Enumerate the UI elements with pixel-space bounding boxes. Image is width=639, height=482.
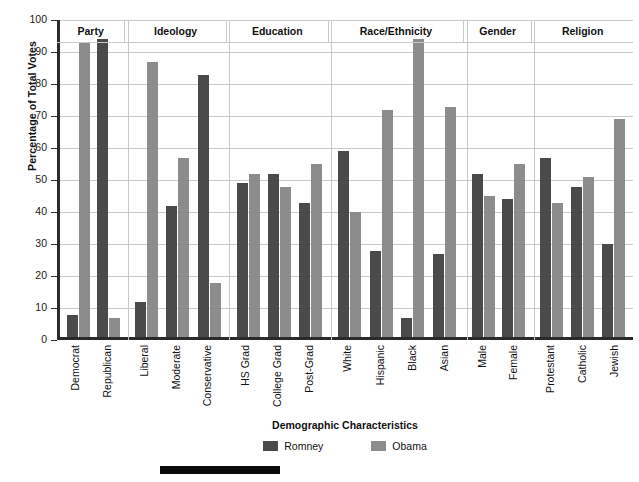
- x-label-group: DemocratRepublican: [57, 343, 125, 423]
- y-axis-tick-label: 60: [0, 141, 47, 153]
- plot-area: [57, 20, 633, 340]
- y-axis-tick-label: 80: [0, 77, 47, 89]
- bar-pair: [67, 17, 90, 337]
- bar-obama: [514, 164, 525, 337]
- bar-pair: [135, 17, 158, 337]
- bar-romney: [401, 318, 412, 337]
- x-axis-tick-label: HS Grad: [232, 343, 258, 423]
- x-axis-tick-label: White: [334, 343, 360, 423]
- bar-pair: [540, 17, 563, 337]
- bar-romney: [237, 183, 248, 337]
- bar-group-religion: [532, 17, 633, 337]
- bar-pair: [472, 17, 495, 337]
- x-axis-tick-label: Female: [500, 343, 526, 423]
- legend-item-obama: Obama: [371, 440, 426, 452]
- x-axis-tick-label: Asian: [431, 343, 457, 423]
- y-axis-tick-label: 100: [0, 13, 47, 25]
- bar-pair: [401, 17, 424, 337]
- x-label-group: ProtestantCatholicJewish: [531, 343, 633, 423]
- y-axis-tick-label: 10: [0, 301, 47, 313]
- group-label-ideology: Ideology: [124, 20, 226, 42]
- group-label-race-ethnicity: Race/Ethnicity: [328, 20, 463, 42]
- bar-romney: [433, 254, 444, 337]
- x-axis-tick-label: Conservative: [194, 343, 220, 423]
- bar-pair: [433, 17, 456, 337]
- x-axis-tick-label: College Grad: [264, 343, 290, 423]
- x-axis-tick-label: Moderate: [163, 343, 189, 423]
- bar-romney: [97, 39, 108, 337]
- bar-obama: [109, 318, 120, 337]
- bar-pair: [97, 17, 120, 337]
- y-axis-tick-mark: [51, 340, 57, 341]
- bar-obama: [484, 196, 495, 337]
- bar-group-gender: [464, 17, 531, 337]
- bar-romney: [135, 302, 146, 337]
- bar-obama: [583, 177, 594, 337]
- y-axis-tick-label: 50: [0, 173, 47, 185]
- bar-group-party: [60, 17, 127, 337]
- bar-obama: [249, 174, 260, 337]
- bar-pair: [370, 17, 393, 337]
- y-axis-tick-label: 70: [0, 109, 47, 121]
- bar-pair: [571, 17, 594, 337]
- bar-romney: [370, 251, 381, 337]
- bar-pair: [299, 17, 322, 337]
- bar-romney: [472, 174, 483, 337]
- x-axis-tick-label: Male: [469, 343, 495, 423]
- x-axis-tick-label: Republican: [94, 343, 120, 423]
- bar-obama: [311, 164, 322, 337]
- bar-obama: [178, 158, 189, 337]
- bar-romney: [299, 203, 310, 337]
- bar-obama: [280, 187, 291, 337]
- bar-obama: [147, 62, 158, 337]
- chart-legend: RomneyObama: [57, 440, 633, 452]
- bar-pair: [166, 17, 189, 337]
- bar-romney: [338, 151, 349, 337]
- bar-romney: [571, 187, 582, 337]
- bar-romney: [268, 174, 279, 337]
- x-label-group: WhiteHispanicBlackAsian: [328, 343, 464, 423]
- bar-pair: [268, 17, 291, 337]
- y-axis-tick-label: 20: [0, 269, 47, 281]
- bar-romney: [502, 199, 513, 337]
- bar-pair: [502, 17, 525, 337]
- bar-series-container: [60, 17, 633, 337]
- x-label-group: HS GradCollege GradPost-Grad: [226, 343, 328, 423]
- y-axis-tick-label: 40: [0, 205, 47, 217]
- bar-group-ideology: [127, 17, 228, 337]
- y-axis-tick-label: 90: [0, 45, 47, 57]
- bar-romney: [166, 206, 177, 337]
- group-header-underline: [57, 42, 633, 43]
- legend-swatch: [263, 441, 278, 451]
- bar-romney: [67, 315, 78, 337]
- bar-pair: [602, 17, 625, 337]
- legend-swatch: [371, 441, 386, 451]
- group-label-gender: Gender: [463, 20, 531, 42]
- group-label-party: Party: [57, 20, 124, 42]
- x-label-group: MaleFemale: [464, 343, 532, 423]
- bar-romney: [602, 244, 613, 337]
- bar-pair: [237, 17, 260, 337]
- group-label-education: Education: [226, 20, 328, 42]
- bar-pair: [338, 17, 361, 337]
- legend-item-romney: Romney: [263, 440, 323, 452]
- y-axis-tick-label: 30: [0, 237, 47, 249]
- bar-obama: [210, 283, 221, 337]
- bar-obama: [552, 203, 563, 337]
- bar-obama: [382, 110, 393, 337]
- y-axis-tick-label: 0: [0, 333, 47, 345]
- bar-romney: [198, 75, 209, 337]
- x-axis-tick-label: Post-Grad: [296, 343, 322, 423]
- x-axis-tick-label: Hispanic: [367, 343, 393, 423]
- x-axis-tick-label: Catholic: [569, 343, 595, 423]
- bar-group-education: [229, 17, 330, 337]
- bar-romney: [540, 158, 551, 337]
- bar-chart-figure: Percentage of Total Votes 10090807060504…: [0, 0, 639, 482]
- x-axis-tick-label: Protestant: [537, 343, 563, 423]
- bar-obama: [614, 119, 625, 337]
- x-label-group: LiberalModerateConservative: [125, 343, 227, 423]
- x-axis-tick-labels: DemocratRepublicanLiberalModerateConserv…: [57, 343, 633, 423]
- bar-obama: [350, 212, 361, 337]
- x-axis-tick-label: Democrat: [62, 343, 88, 423]
- x-axis-tick-label: Jewish: [601, 343, 627, 423]
